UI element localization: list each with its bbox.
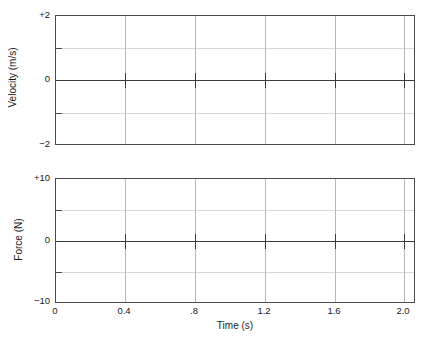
force-zero-baseline <box>56 241 414 242</box>
time-tick-label-08: .8 <box>182 306 206 316</box>
force-axis-title: Force (N) <box>13 213 24 267</box>
force-ytick-stub-neg5 <box>56 272 62 273</box>
velocity-zero-baseline <box>56 80 414 81</box>
force-gridline-pos5 <box>56 210 414 211</box>
time-axis-title: Time (s) <box>175 320 295 331</box>
velocity-axis-title: Velocity (m/s) <box>7 42 18 114</box>
time-tick-label-16: 1.6 <box>322 306 346 316</box>
force-zerotick-t20 <box>404 234 405 249</box>
time-tick-label-0: 0 <box>43 306 67 316</box>
velocity-zerotick-t04 <box>125 73 126 88</box>
velocity-ytick-stub-pos1 <box>56 48 62 49</box>
time-tick-label-20: 2.0 <box>391 306 415 316</box>
force-zerotick-t12 <box>265 234 266 249</box>
force-ytick-stub-pos5 <box>56 210 62 211</box>
velocity-zerotick-t16 <box>335 73 336 88</box>
time-tick-label-12: 1.2 <box>252 306 276 316</box>
force-plot-area <box>56 179 414 302</box>
velocity-gridline-pos1 <box>56 48 414 49</box>
velocity-zerotick-t12 <box>265 73 266 88</box>
time-tick-label-04: 0.4 <box>112 306 136 316</box>
force-zerotick-t08 <box>195 234 196 249</box>
velocity-ytick-label-top: +2 <box>14 10 50 20</box>
force-zerotick-t16 <box>335 234 336 249</box>
velocity-plot-area <box>56 16 414 144</box>
force-plot-panel <box>55 178 415 303</box>
velocity-zerotick-t20 <box>404 73 405 88</box>
velocity-ytick-stub-neg1 <box>56 113 62 114</box>
force-ytick-label-bottom: −10 <box>8 296 50 306</box>
velocity-gridline-neg1 <box>56 113 414 114</box>
velocity-zerotick-t08 <box>195 73 196 88</box>
figure-canvas: +2 0 −2 Velocity (m/s) +10 <box>0 0 442 350</box>
velocity-ytick-label-middle: 0 <box>14 74 50 84</box>
force-gridline-neg5 <box>56 272 414 273</box>
velocity-plot-panel <box>55 15 415 145</box>
force-zerotick-t04 <box>125 234 126 249</box>
force-ytick-label-top: +10 <box>8 173 50 183</box>
velocity-ytick-label-bottom: −2 <box>14 139 50 149</box>
